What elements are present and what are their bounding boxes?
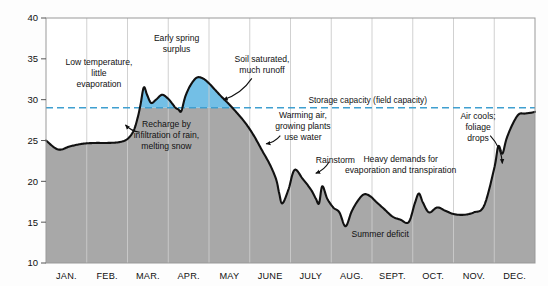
chart-figure: Centimeters of water in upper meter of s… [0,0,548,286]
y-axis-tick-label: 35 [27,53,38,64]
soil-moisture-chart: 10152025303540JAN.FEB.MAR.APR.MAYJUNEJUL… [0,0,548,286]
x-axis-tick-label: JUNE [258,271,283,281]
x-axis-tick-label: SEPT. [379,271,406,281]
x-axis-tick-label: MAY [219,271,239,281]
y-axis-tick-label: 20 [27,176,38,187]
y-axis-tick-label: 40 [27,12,38,23]
x-axis-tick-label: FEB. [97,271,118,281]
x-axis-tick-label: DEC. [503,271,526,281]
y-axis-tick-label: 25 [27,135,38,146]
y-axis-tick-label: 10 [27,257,38,268]
y-axis-tick-label: 15 [27,217,38,228]
x-axis-tick-label: OCT. [422,271,444,281]
x-axis-tick-label: MAR. [136,271,160,281]
x-axis-tick-label: JAN. [56,271,77,281]
x-axis-tick-label: JULY [300,271,323,281]
x-axis-tick-label: AUG. [340,271,363,281]
y-axis-tick-label: 30 [27,94,38,105]
x-axis-tick-label: NOV. [463,271,485,281]
x-axis-tick-label: APR. [178,271,200,281]
